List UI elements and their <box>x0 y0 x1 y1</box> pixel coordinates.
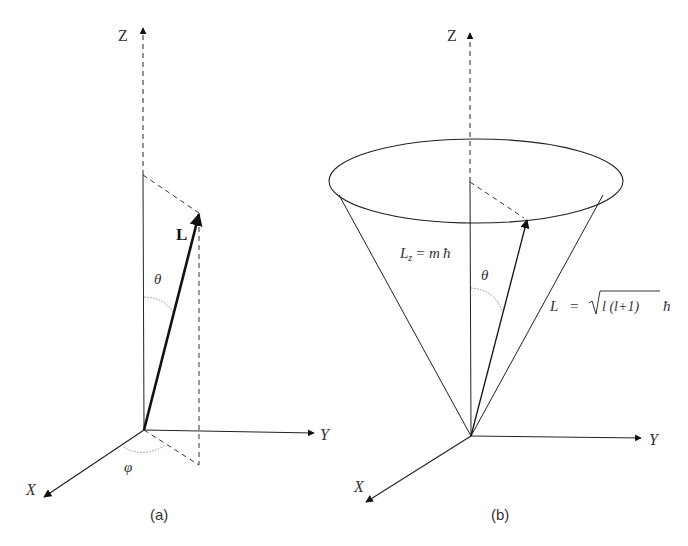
cone-side-left <box>339 195 471 436</box>
lz-hbar: ħ <box>443 245 451 261</box>
phi-label-a: φ <box>124 459 132 475</box>
y-axis-a <box>144 430 314 433</box>
panel-b: Z Y X θ Lz= mħ L = l (l+1) ħ (b) <box>329 27 671 523</box>
z-label-a: Z <box>118 27 128 44</box>
cone-side-right <box>471 195 603 436</box>
x-axis-b <box>366 436 471 502</box>
lz-sub: z <box>407 252 412 263</box>
phi-arc-a <box>121 445 166 453</box>
y-axis-b <box>471 436 641 438</box>
l-magnitude-main: L <box>549 298 558 314</box>
lz-eq: = m <box>415 245 440 261</box>
panel-a: Z Y X L θ φ (a) <box>25 27 331 523</box>
z-label-b: Z <box>447 27 457 44</box>
caption-a: (a) <box>150 506 168 523</box>
theta-label-b: θ <box>481 267 489 283</box>
cone-rim <box>329 139 623 223</box>
l-magnitude-root: l (l+1) <box>602 299 639 315</box>
l-magnitude-eq: = <box>570 298 578 314</box>
x-label-b: X <box>353 478 365 495</box>
theta-arc-a <box>144 297 173 313</box>
l-vector-b <box>471 220 527 436</box>
z-projection-b <box>470 182 471 436</box>
y-label-b: Y <box>649 431 660 448</box>
angular-momentum-figure: Z Y X L θ φ (a) Z Y X θ Lz= mħ <box>0 0 688 546</box>
z-projection-a <box>143 175 144 430</box>
lz-dashed-b <box>470 182 524 218</box>
lz-equation: Lz= mħ <box>399 245 450 263</box>
theta-label-a: θ <box>154 271 162 287</box>
lz-main: L <box>399 245 408 261</box>
y-label-a: Y <box>320 426 331 443</box>
lz-dashed-a <box>143 175 199 213</box>
l-magnitude-hbar: ħ <box>663 298 671 314</box>
l-vector-a <box>144 214 199 430</box>
xy-projection-a <box>144 430 199 465</box>
x-label-a: X <box>25 481 37 498</box>
l-vector-label-a: L <box>176 225 187 244</box>
caption-b: (b) <box>491 506 509 523</box>
theta-arc-b <box>471 288 502 312</box>
